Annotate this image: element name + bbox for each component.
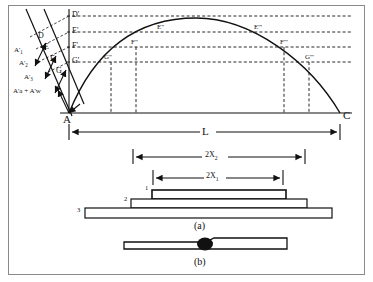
label-dimension-2x2: 2X2: [205, 151, 218, 161]
layer-bar-1: [152, 190, 286, 199]
force-arrow-aw: [58, 90, 69, 113]
label-point-c: C: [343, 110, 350, 121]
layer-bar-2: [131, 199, 307, 208]
label-layer-3: 3: [77, 207, 80, 214]
label-force-3: A'3: [24, 74, 33, 82]
label-point-g-dprime: G": [104, 54, 112, 61]
label-point-e-prime: E': [72, 27, 78, 35]
label-point-f: F: [50, 55, 54, 63]
drop-line-group: [111, 47, 309, 113]
label-point-g-tprime: G''': [305, 54, 314, 61]
label-dimension-2x1: 2X1: [206, 172, 219, 182]
label-dimension-l: L: [202, 126, 209, 137]
dimension-x2-group: [133, 149, 305, 164]
panel-b-bead: [197, 238, 213, 251]
label-point-g: G: [56, 67, 62, 75]
label-point-a: A: [63, 114, 71, 125]
label-point-d: D: [38, 32, 44, 40]
label-point-f-tprime: F''': [280, 39, 288, 46]
slant-line-outer: [26, 9, 72, 116]
ray-d: [30, 16, 69, 37]
label-point-e-tprime: E''': [254, 24, 262, 31]
label-point-e: E: [44, 43, 49, 51]
label-force-aw: A'a + A'w: [13, 88, 41, 95]
label-point-f-prime: F': [72, 42, 78, 50]
label-point-g-prime: G': [72, 57, 79, 65]
label-force-1: A'1: [14, 47, 23, 55]
label-force-2: A'2: [19, 60, 28, 68]
label-point-f-dprime: F": [131, 39, 138, 46]
layer-bar-3: [85, 208, 332, 218]
caption-panel-b: (b): [194, 257, 206, 267]
caption-panel-a: (a): [194, 221, 205, 231]
layer-stack-group: [85, 190, 332, 218]
diagram-svg: [0, 0, 373, 282]
figure-container: A C D E F G D' E' F' G' E" F" G" E''' F'…: [0, 0, 373, 282]
label-layer-1: 1: [145, 185, 148, 192]
panel-b-group: [124, 238, 287, 251]
label-layer-2: 2: [124, 196, 127, 203]
label-point-e-dprime: E": [157, 24, 164, 31]
label-point-d-prime: D': [72, 11, 79, 19]
